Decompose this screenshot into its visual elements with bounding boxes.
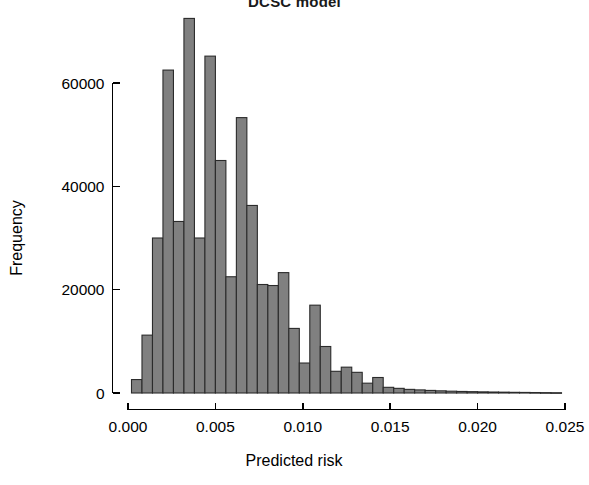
histogram-bar bbox=[520, 392, 530, 393]
histogram-bar bbox=[457, 391, 467, 393]
histogram-bar bbox=[509, 392, 519, 393]
histogram-bar bbox=[436, 391, 446, 393]
histogram-bars bbox=[132, 18, 562, 393]
plot-area: 0.0000.0050.0100.0150.0200.025 020000400… bbox=[0, 0, 589, 485]
histogram-bar bbox=[310, 305, 320, 393]
y-axis-title: Frequency bbox=[8, 200, 25, 276]
histogram-bar bbox=[362, 383, 372, 393]
histogram-bar bbox=[530, 393, 540, 394]
histogram-bar bbox=[341, 367, 351, 393]
x-axis-title: Predicted risk bbox=[246, 452, 344, 469]
histogram-bar bbox=[236, 118, 246, 393]
chart-canvas: 0.0000.0050.0100.0150.0200.025 020000400… bbox=[0, 0, 589, 485]
histogram-bar bbox=[205, 56, 215, 393]
histogram-bar bbox=[499, 392, 509, 393]
x-tick-label: 0.015 bbox=[371, 418, 410, 435]
histogram-bar bbox=[488, 392, 498, 393]
histogram-bar bbox=[173, 221, 183, 393]
histogram-bar bbox=[467, 392, 477, 393]
histogram-bar bbox=[289, 328, 299, 393]
x-tick-labels: 0.0000.0050.0100.0150.0200.025 bbox=[109, 418, 585, 435]
histogram-bar bbox=[352, 372, 362, 393]
histogram-bar bbox=[247, 205, 257, 393]
histogram-bar bbox=[226, 277, 236, 393]
histogram-bar bbox=[257, 285, 267, 394]
y-axis bbox=[113, 83, 120, 393]
y-tick-label: 40000 bbox=[61, 178, 104, 195]
histogram-bar bbox=[163, 70, 173, 393]
histogram-bar bbox=[320, 347, 330, 394]
x-tick-label: 0.020 bbox=[458, 418, 497, 435]
histogram-bar bbox=[478, 392, 488, 393]
x-tick-label: 0.005 bbox=[196, 418, 235, 435]
histogram-bar bbox=[373, 378, 383, 394]
histogram-figure: DCSC model 0.0000.0050.0100.0150.0200.02… bbox=[0, 0, 589, 485]
y-tick-label: 60000 bbox=[61, 75, 104, 92]
histogram-bar bbox=[268, 286, 278, 393]
histogram-bar bbox=[194, 238, 204, 393]
x-tick-label: 0.010 bbox=[283, 418, 322, 435]
histogram-bar bbox=[551, 393, 561, 394]
histogram-bar bbox=[394, 388, 404, 393]
x-tick-label: 0.025 bbox=[546, 418, 585, 435]
histogram-bar bbox=[278, 273, 288, 393]
histogram-bar bbox=[446, 391, 456, 393]
histogram-bar bbox=[215, 161, 225, 394]
histogram-bar bbox=[152, 238, 162, 393]
y-tick-labels: 0200004000060000 bbox=[61, 75, 104, 402]
histogram-bar bbox=[541, 393, 551, 394]
y-tick-label: 0 bbox=[96, 385, 105, 402]
histogram-bar bbox=[299, 363, 309, 393]
y-tick-label: 20000 bbox=[61, 281, 104, 298]
x-axis bbox=[128, 403, 565, 410]
histogram-bar bbox=[383, 387, 393, 393]
histogram-bar bbox=[415, 390, 425, 393]
histogram-bar bbox=[132, 380, 142, 393]
histogram-bar bbox=[425, 390, 435, 393]
histogram-bar bbox=[404, 389, 414, 393]
x-tick-label: 0.000 bbox=[109, 418, 148, 435]
histogram-bar bbox=[331, 371, 341, 393]
histogram-bar bbox=[142, 335, 152, 393]
histogram-bar bbox=[184, 18, 194, 393]
